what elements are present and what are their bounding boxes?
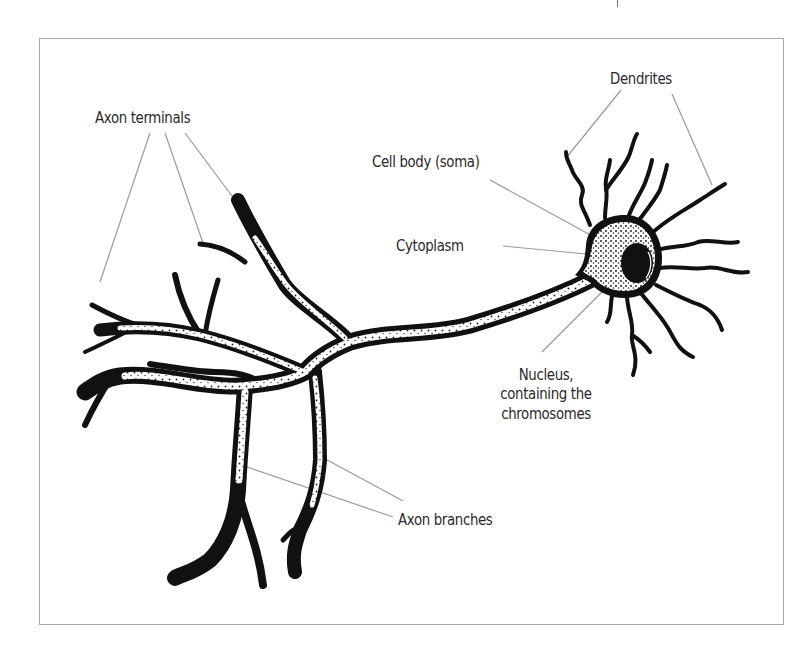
label-axon-terminals: Axon terminals xyxy=(95,108,190,128)
label-cell-body: Cell body (soma) xyxy=(372,152,480,172)
label-dendrites: Dendrites xyxy=(610,69,672,89)
label-nucleus-2: containing the xyxy=(460,384,632,404)
label-nucleus-1: Nucleus, xyxy=(460,365,632,385)
nucleus xyxy=(621,243,653,283)
label-cytoplasm: Cytoplasm xyxy=(396,236,464,256)
label-axon-branches: Axon branches xyxy=(398,510,492,530)
label-nucleus-3: chromosomes xyxy=(460,404,632,424)
neuron-illustration xyxy=(0,0,811,650)
